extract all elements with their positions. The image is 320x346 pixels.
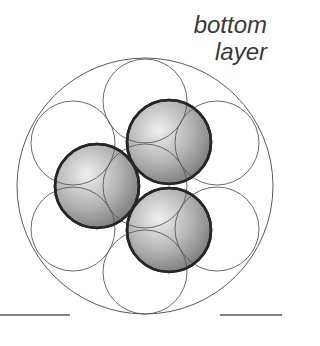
label-layer: layer: [215, 40, 267, 64]
label-bottom: bottom: [194, 13, 267, 37]
spheres: [55, 100, 211, 272]
